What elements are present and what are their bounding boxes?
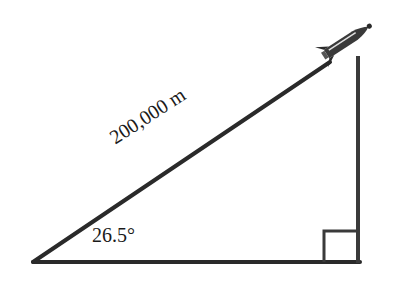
triangle-diagram: 200,000 m 26.5° xyxy=(0,0,404,294)
angle-label: 26.5° xyxy=(92,224,135,247)
rocket-icon xyxy=(315,15,378,68)
triangle-svg xyxy=(0,0,404,294)
right-angle-marker xyxy=(324,231,358,262)
